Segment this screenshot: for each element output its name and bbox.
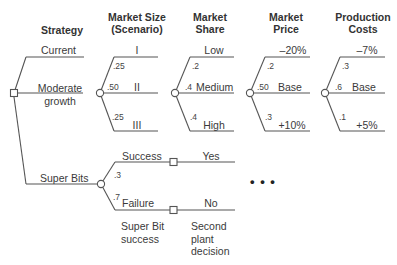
market-size-prob-i: .25 [113,60,125,72]
header-market-share-line1: Market [185,11,235,23]
market-price-prob-plus10: .3 [265,111,272,123]
strategy-option-current: Current [41,44,76,56]
production-costs-prob-plus5: .1 [339,111,346,123]
market-share-label-medium: Medium [196,81,233,93]
super-bits-prob-failure: .7 [113,191,120,203]
market-size-label-ii: II [128,81,146,93]
market-price-prob-base: .50 [257,81,269,93]
market-share-prob-medium: .4 [185,81,192,93]
root-decision-node [11,90,18,97]
header-production-costs-line2: Costs [330,23,396,35]
second-plant-yes: Yes [196,150,226,162]
second-plant-no: No [196,197,226,209]
continuation-ellipsis: • • • [250,176,276,188]
caption-second-plant-line3: decision [191,245,230,258]
header-production-costs: Production Costs [330,11,396,35]
moderate-line1: Moderate [33,82,87,95]
market-size-prob-iii: .25 [112,111,124,123]
moderate-line2: growth [33,95,87,108]
header-market-share-line2: Share [185,23,235,35]
header-market-price: Market Price [261,11,311,35]
caption-second-plant-decision: Second plant decision [191,220,230,258]
caption-super-bit-line1: Super Bit [121,220,164,233]
market-size-chance-node [96,89,103,96]
caption-super-bit-line2: success [121,233,164,246]
market-size-label-iii: III [128,119,146,131]
super-bits-prob-success: .3 [114,169,121,181]
production-costs-chance-node [321,89,328,96]
market-share-chance-node [171,89,178,96]
strategy-option-moderate-growth: Moderate growth [33,82,87,107]
super-bits-chance-node [97,180,104,187]
header-market-size-line2: (Scenario) [103,23,171,35]
caption-super-bit-success: Super Bit success [121,220,164,245]
caption-second-plant-line1: Second [191,220,230,233]
strategy-option-super-bits: Super Bits [40,172,88,184]
market-share-prob-low: .2 [192,60,199,72]
success-decision-node [170,159,177,166]
market-share-prob-high: .4 [190,111,197,123]
caption-second-plant-line2: plant [191,233,230,246]
market-size-prob-ii: .50 [107,81,119,93]
market-price-label-plus10: +10% [274,119,310,131]
header-market-size: Market Size (Scenario) [103,11,171,35]
header-production-costs-line1: Production [330,11,396,23]
failure-decision-node [170,207,177,214]
header-strategy: Strategy [34,24,90,36]
production-costs-label-base: Base [352,81,376,93]
market-share-label-low: Low [196,44,232,56]
production-costs-label-plus5: +5% [352,119,382,131]
market-share-label-high: High [196,119,232,131]
header-market-size-line1: Market Size [103,11,171,23]
production-costs-prob-minus7: .3 [342,60,349,72]
market-price-label-base: Base [278,81,302,93]
production-costs-prob-base: .6 [335,81,342,93]
header-market-price-line2: Price [261,23,311,35]
header-market-price-line1: Market [261,11,311,23]
market-price-chance-node [246,89,253,96]
super-bits-label-success: Success [122,150,162,162]
super-bits-label-failure: Failure [122,197,154,209]
market-price-prob-minus20: .2 [267,60,274,72]
production-costs-label-minus7: –7% [352,44,382,56]
market-price-label-minus20: –20% [276,44,310,56]
header-market-share: Market Share [185,11,235,35]
market-size-label-i: I [130,44,144,56]
